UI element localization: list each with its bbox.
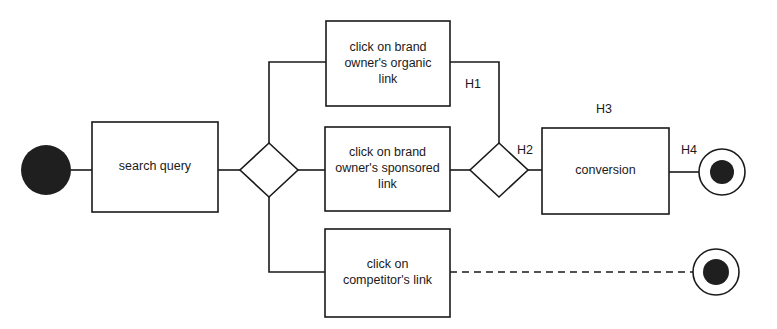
task-sponsored-link[interactable]: click on brand owner's sponsored link bbox=[325, 127, 450, 211]
task-search-query-label: search query bbox=[119, 159, 192, 173]
task-competitor-link[interactable]: click on competitor's link bbox=[325, 229, 450, 317]
process-diagram: search query click on brand owner's orga… bbox=[0, 0, 777, 329]
task-organic-link-label-line2: owner's organic bbox=[344, 56, 431, 70]
start-event-icon bbox=[21, 145, 71, 195]
end-event-competitor-core-icon bbox=[703, 259, 729, 285]
task-conversion[interactable]: conversion bbox=[542, 128, 669, 214]
end-event-conversion-core-icon bbox=[710, 160, 734, 184]
end-event-competitor[interactable] bbox=[693, 249, 739, 295]
task-sponsored-link-label-line2: owner's sponsored bbox=[335, 161, 440, 175]
process-diagram-canvas: search query click on brand owner's orga… bbox=[0, 0, 777, 329]
edge-label-h2: H2 bbox=[517, 143, 533, 157]
end-event-conversion[interactable] bbox=[699, 149, 745, 195]
task-competitor-link-label-line2: competitor's link bbox=[343, 273, 433, 287]
flow-gateway-to-organic bbox=[269, 62, 326, 143]
gateway-split[interactable] bbox=[240, 143, 298, 197]
gateway-split-diamond bbox=[240, 143, 298, 197]
task-organic-link-label-line1: click on brand bbox=[349, 40, 426, 54]
flow-organic-to-merge bbox=[450, 62, 499, 143]
edge-label-h4: H4 bbox=[681, 143, 697, 157]
flow-gateway-to-competitor bbox=[269, 197, 325, 272]
task-sponsored-link-label-line1: click on brand bbox=[349, 145, 426, 159]
edge-label-h3: H3 bbox=[596, 102, 612, 116]
task-organic-link[interactable]: click on brand owner's organic link bbox=[326, 21, 450, 106]
start-event[interactable] bbox=[21, 145, 71, 195]
task-organic-link-label-line3: link bbox=[379, 72, 399, 86]
edge-label-h1: H1 bbox=[465, 77, 481, 91]
task-sponsored-link-label-line3: link bbox=[378, 177, 398, 191]
task-competitor-link-label-line1: click on bbox=[367, 257, 409, 271]
task-search-query[interactable]: search query bbox=[92, 122, 218, 212]
task-conversion-label: conversion bbox=[575, 163, 635, 177]
